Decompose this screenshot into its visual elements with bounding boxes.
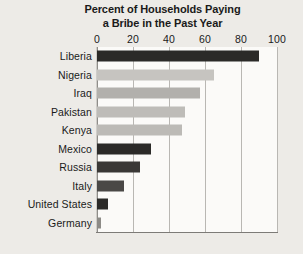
chart-row: Germany [0, 214, 303, 233]
chart-row: Mexico [0, 140, 303, 159]
bar-nigeria [97, 69, 214, 80]
x-tick-60: 60 [199, 33, 211, 45]
bar-united-states [97, 199, 108, 210]
category-label-mexico: Mexico [58, 143, 92, 155]
chart-rows: LiberiaNigeriaIraqPakistanKenyaMexicoRus… [0, 47, 303, 232]
chart-title-line-2: a Bribe in the Past Year [40, 17, 285, 31]
chart-row: Italy [0, 177, 303, 196]
chart-title: Percent of Households Paying a Bribe in … [40, 3, 285, 30]
x-axis-tick-labels: 020406080100 [0, 33, 303, 47]
bar-kenya [97, 125, 182, 136]
chart-row: Iraq [0, 84, 303, 103]
x-tick-100: 100 [268, 33, 286, 45]
bar-iraq [97, 88, 200, 99]
category-label-nigeria: Nigeria [58, 69, 92, 81]
category-label-united-states: United States [28, 198, 92, 210]
category-label-liberia: Liberia [60, 50, 92, 62]
bar-italy [97, 180, 124, 191]
x-tick-20: 20 [127, 33, 139, 45]
x-axis-line [96, 232, 278, 233]
category-label-kenya: Kenya [62, 124, 92, 136]
bar-pakistan [97, 106, 185, 117]
bar-mexico [97, 143, 151, 154]
chart-row: Kenya [0, 121, 303, 140]
category-label-italy: Italy [72, 180, 92, 192]
category-label-germany: Germany [48, 217, 92, 229]
category-label-iraq: Iraq [74, 87, 93, 99]
chart-row: United States [0, 195, 303, 214]
chart-row: Russia [0, 158, 303, 177]
x-tick-80: 80 [235, 33, 247, 45]
x-tick-0: 0 [94, 33, 100, 45]
bar-chart-figure: Percent of Households Paying a Bribe in … [0, 0, 303, 254]
bar-russia [97, 162, 140, 173]
chart-row: Nigeria [0, 66, 303, 85]
bar-liberia [97, 51, 259, 62]
category-label-pakistan: Pakistan [51, 106, 92, 118]
chart-row: Pakistan [0, 103, 303, 122]
x-tick-40: 40 [163, 33, 175, 45]
chart-title-line-1: Percent of Households Paying [40, 3, 285, 17]
category-label-russia: Russia [59, 161, 92, 173]
chart-row: Liberia [0, 47, 303, 66]
bar-germany [97, 217, 101, 228]
